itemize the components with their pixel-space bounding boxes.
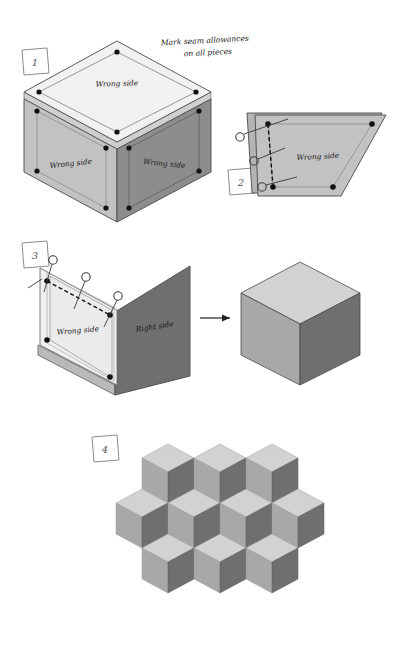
tumbling-blocks-pattern: [116, 444, 324, 593]
corner-dot-icon: [107, 374, 113, 380]
corner-dot-icon: [103, 145, 108, 150]
corner-dot-icon: [103, 205, 108, 210]
corner-dot-icon: [36, 89, 41, 94]
corner-dot-icon: [270, 184, 276, 190]
corner-dot-icon: [44, 337, 50, 343]
step-4-number: 4: [101, 444, 108, 455]
corner-dot-icon: [330, 184, 336, 190]
corner-dot-icon: [126, 145, 131, 150]
step-2-number: 2: [237, 177, 244, 188]
corner-dot-icon: [369, 121, 375, 127]
corner-dot-icon: [193, 89, 198, 94]
instruction-sheet: 1 Mark seam allowances on all pieces Wro…: [0, 0, 397, 649]
top-piece-label: Wrong side: [96, 78, 139, 88]
step-3-number: 3: [32, 250, 38, 261]
step-1-number: 1: [32, 57, 38, 68]
corner-dot-icon: [196, 168, 201, 173]
corner-dot-icon: [114, 129, 119, 134]
corner-dot-icon: [126, 205, 131, 210]
corner-dot-icon: [34, 108, 39, 113]
corner-dot-icon: [114, 49, 119, 54]
corner-dot-icon: [34, 168, 39, 173]
corner-dot-icon: [196, 108, 201, 113]
